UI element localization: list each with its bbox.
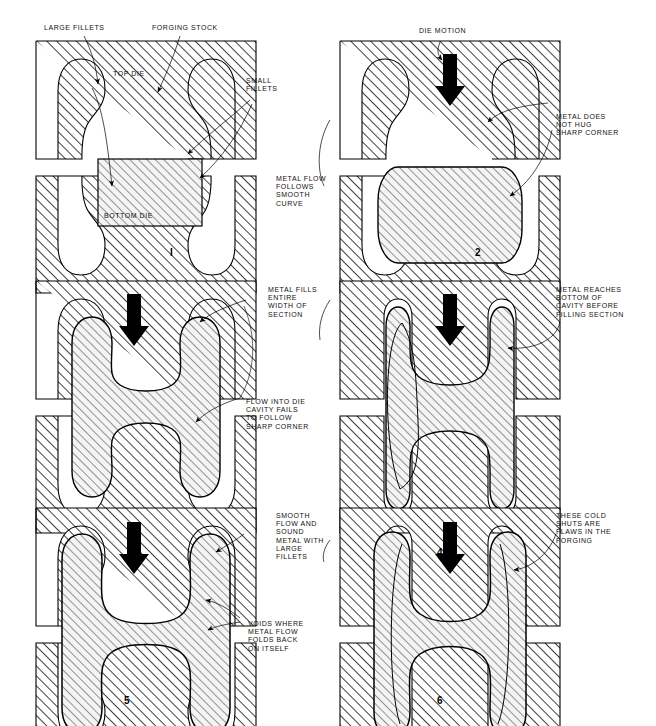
- panel-4: [319, 281, 560, 533]
- label-small-fillets: SMALL FILLETS: [246, 77, 277, 93]
- label-top-die: TOP DIE: [113, 70, 145, 78]
- panel-number-2: 2: [475, 247, 482, 258]
- label-metal-reaches-bottom: METAL REACHES BOTTOM OF CAVITY BEFORE FI…: [556, 286, 624, 319]
- panel-number-5: 5: [124, 695, 131, 706]
- forging-sequence-illustration: [0, 0, 656, 726]
- panel-number-6: 6: [437, 695, 444, 706]
- label-flow-into-die-cavity-fails: FLOW INTO DIE CAVITY FAILS TO FOLLOW SHA…: [246, 398, 309, 431]
- figure-sheet: LARGE FILLETS FORGING STOCK TOP DIE BOTT…: [0, 0, 656, 726]
- label-bottom-die: BOTTOM DIE: [104, 212, 153, 220]
- panel-6: [323, 508, 560, 726]
- label-cold-shuts-are-flaws: THESE COLD SHUTS ARE FLAWS IN THE FORGIN…: [556, 512, 611, 545]
- label-smooth-flow-sound-metal: SMOOTH FLOW AND SOUND METAL WITH LARGE F…: [276, 512, 324, 561]
- panel-number-3: 3: [131, 547, 138, 558]
- panel-3: [36, 281, 256, 533]
- label-voids-metal-folds-back: VOIDS WHERE METAL FLOW FOLDS BACK ON ITS…: [248, 620, 304, 653]
- label-die-motion: DIE MOTION: [419, 27, 466, 35]
- panel-5: [36, 508, 256, 726]
- label-metal-flow-smooth-curve: METAL FLOW FOLLOWS SMOOTH CURVE: [276, 175, 326, 208]
- label-forging-stock: FORGING STOCK: [152, 24, 218, 32]
- label-large-fillets: LARGE FILLETS: [44, 24, 104, 32]
- panel-1: [36, 36, 256, 293]
- label-metal-does-not-hug: METAL DOES NOT HUG SHARP CORNER: [556, 113, 619, 138]
- panel-number-1: I: [170, 247, 174, 258]
- label-metal-fills-entire-width: METAL FILLS ENTIRE WIDTH OF SECTION: [268, 286, 317, 319]
- panel-2: [319, 41, 560, 293]
- panel-number-4: 4: [437, 547, 444, 558]
